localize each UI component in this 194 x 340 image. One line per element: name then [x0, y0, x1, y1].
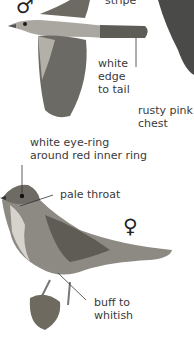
stripe-label: stripe — [105, 0, 136, 7]
belly-label-2: whitish — [94, 309, 133, 322]
tail-label-1: white — [98, 57, 128, 70]
eye-ring-label-2: around red inner ring — [30, 149, 147, 162]
chest-label-1: rusty pink — [138, 104, 193, 117]
belly-label-1: buff to — [94, 296, 130, 309]
belly-pointer-line — [58, 273, 86, 300]
female-symbol: ♀ — [123, 216, 138, 236]
throat-label: pale throat — [60, 188, 120, 201]
tail-label-3: to tail — [98, 83, 130, 96]
tail-label-2: edge — [98, 70, 126, 83]
eye-ring-label-1: white eye-ring — [30, 136, 109, 149]
male-symbol: ♂ — [16, 0, 34, 16]
chest-label-2: chest — [138, 117, 168, 130]
illustration-canvas — [0, 0, 194, 340]
female-perched-bird-illustration — [0, 185, 172, 330]
adjacent-bird-illustration — [158, 0, 194, 75]
